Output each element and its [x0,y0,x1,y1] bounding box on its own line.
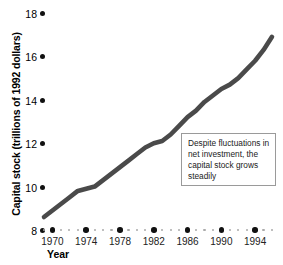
x-axis-minor-dot [246,229,248,231]
x-axis-minor-dot [262,229,264,231]
x-axis-major-dot [151,227,157,233]
x-axis-major-dot [83,227,89,233]
x-axis-major-dot [50,227,56,233]
annotation-callout: Despite fluctuations in net investment, … [181,133,276,186]
x-axis-minor-dot [110,229,112,231]
x-axis-minor-dot [94,229,96,231]
x-axis-major-dot [185,227,191,233]
x-axis-major-dot [117,227,123,233]
x-axis-title: Year [47,248,69,260]
x-axis-major-dot [219,227,225,233]
x-axis-minor-dot [127,229,129,231]
x-axis-minor-dot [170,229,172,231]
x-axis-minor-dot [203,229,205,231]
annotation-text: Despite fluctuations in net investment, … [188,138,269,181]
x-axis-major-dot [252,227,258,233]
capital-stock-line-chart: Capital stock (trillions of 1992 dollars… [0,0,283,265]
x-tick-label-1994: 1994 [235,236,275,247]
